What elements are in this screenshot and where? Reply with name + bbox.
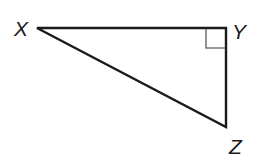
triangle-xyz <box>37 28 226 127</box>
vertex-label-z: Z <box>228 135 243 158</box>
vertex-label-x: X <box>13 17 29 40</box>
right-angle-marker <box>206 29 225 48</box>
triangle-diagram: X Y Z <box>0 0 256 158</box>
vertex-label-y: Y <box>232 20 248 43</box>
